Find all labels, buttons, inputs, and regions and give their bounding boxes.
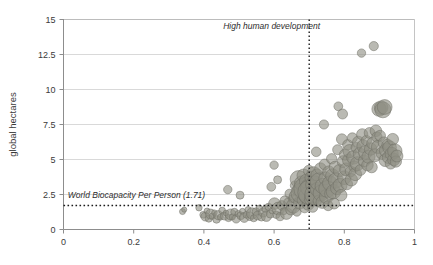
data-point — [335, 189, 347, 201]
data-point — [274, 176, 282, 184]
data-point — [338, 109, 348, 119]
y-tick-label-4: 10 — [45, 85, 55, 95]
data-point — [391, 150, 403, 162]
data-point — [377, 100, 392, 115]
data-point — [366, 162, 377, 173]
data-point — [224, 185, 232, 193]
chart-figure: 00.20.40.60.8102.557.51012.515 World Bio… — [0, 0, 433, 265]
x-tick-label-2: 0.4 — [198, 237, 211, 247]
y-tick-label-2: 5 — [50, 155, 55, 165]
x-tick-label-5: 1 — [412, 237, 417, 247]
y-axis-title: global hectares — [7, 92, 18, 157]
y-tick-label-0: 0 — [50, 225, 55, 235]
data-point — [357, 49, 365, 57]
y-tick-label-6: 15 — [45, 15, 55, 25]
y-tick-label-5: 12.5 — [38, 50, 56, 60]
data-point — [319, 120, 328, 129]
x-tick-label-0: 0 — [61, 237, 66, 247]
data-point — [267, 182, 276, 191]
axis-titles-group: global hectares — [7, 92, 18, 157]
data-point — [270, 161, 278, 169]
annotation-labels-group: World Biocapacity Per Person (1.71)High … — [68, 21, 321, 200]
y-tick-label-3: 7.5 — [43, 120, 56, 130]
y-tick-label-1: 2.5 — [43, 190, 56, 200]
data-point — [311, 147, 321, 157]
scatter-plot-svg: 00.20.40.60.8102.557.51012.515 World Bio… — [0, 0, 433, 265]
data-point — [182, 207, 187, 212]
world-biocapacity-line-label: World Biocapacity Per Person (1.71) — [68, 190, 206, 200]
data-point — [387, 133, 399, 145]
high-human-development-line-label: High human development — [223, 21, 321, 31]
data-point — [369, 42, 378, 51]
x-tick-label-4: 0.8 — [338, 237, 351, 247]
x-tick-label-1: 0.2 — [127, 237, 140, 247]
x-tick-label-3: 0.6 — [268, 237, 281, 247]
data-point — [236, 191, 244, 199]
data-points-group — [179, 42, 402, 224]
